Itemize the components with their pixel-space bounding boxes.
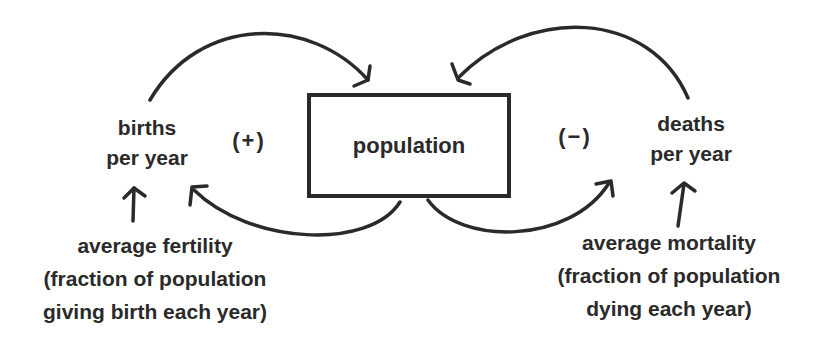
mortality-line-3: dying each year) (524, 292, 814, 325)
births-line-1: births (82, 113, 212, 143)
average-fertility-label: average fertility (fraction of populatio… (10, 229, 300, 328)
deaths-per-year-label: deaths per year (626, 109, 756, 169)
deaths-line-2: per year (626, 139, 756, 169)
population-causal-loop-diagram: births per year (+) population (−) death… (0, 0, 815, 347)
fertility-line-3: giving birth each year) (10, 295, 300, 328)
balancing-loop-sign: (−) (550, 122, 600, 152)
average-mortality-label: average mortality (fraction of populatio… (524, 226, 814, 325)
deaths-line-1: deaths (626, 109, 756, 139)
population-stock-box: population (307, 93, 511, 198)
mortality-line-1: average mortality (524, 226, 814, 259)
mortality-to-deaths-arrow (678, 184, 684, 226)
reinforcing-loop-sign: (+) (224, 126, 274, 156)
fertility-line-1: average fertility (10, 229, 300, 262)
births-to-population-arrow (150, 33, 368, 100)
births-line-2: per year (82, 143, 212, 173)
deaths-to-population-arrow (458, 27, 688, 98)
fertility-to-births-arrow (133, 188, 134, 221)
mortality-line-2: (fraction of population (524, 259, 814, 292)
births-per-year-label: births per year (82, 113, 212, 173)
fertility-line-2: (fraction of population (10, 262, 300, 295)
population-label: population (353, 133, 465, 159)
